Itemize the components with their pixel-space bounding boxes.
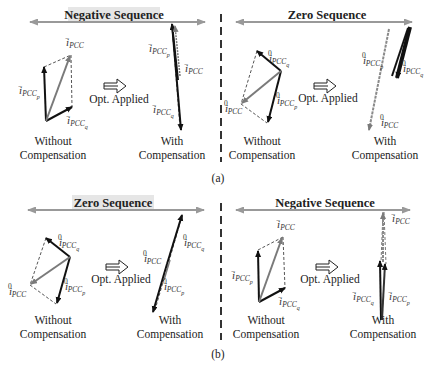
caption-without-l1: Without	[34, 314, 72, 326]
vector-ipcc-q-after	[380, 261, 381, 320]
opt-applied-label: Opt. Applied	[298, 92, 358, 105]
opt-applied-label: Opt. Applied	[300, 273, 360, 286]
caption-without-l2: Compensation	[20, 149, 87, 162]
vector-ipcc-p	[44, 67, 46, 121]
label-ipcc-p-after: i−PCCp	[148, 40, 170, 58]
label-i0pcc: i0PCC	[224, 99, 243, 116]
label-ipcc-p-after: i−PCCp	[388, 288, 410, 306]
label-i0pcc-q: i0PCCq	[58, 233, 79, 252]
section-title: Negative Sequence	[275, 196, 375, 210]
label-ipcc-q: i−PCCq	[278, 293, 300, 311]
label-ipcc-p: i−PCCp	[18, 82, 40, 100]
vector-ipcc-p	[258, 251, 259, 302]
caption-without-l1: Without	[243, 135, 281, 147]
caption-with-l1: With	[372, 314, 395, 326]
label-i0pcc-q-after: i0PCCq	[183, 233, 204, 252]
caption-with-l2: Compensation	[139, 149, 206, 162]
label-ipcc-q-after: i−PCCq	[352, 288, 374, 306]
opt-applied-label: Opt. Applied	[89, 93, 149, 106]
panel-b-right: Negative Sequence i−PCC i−PCCp i−PCCq Wi…	[231, 196, 416, 341]
label-i0pcc-p: i0PCCp	[276, 91, 297, 110]
caption-with-l1: With	[159, 314, 182, 326]
label-ipcc-q-after: i−PCCq	[152, 101, 174, 119]
panel-a-left: Negative Sequence i−PCC i−PCCp i−PCCq Wi…	[18, 7, 205, 162]
label-i0pcc: i0PCC	[8, 282, 27, 299]
label-i0pcc-p-after: i0PCCp	[362, 51, 383, 70]
label-i0pcc-after: i0PCC	[143, 249, 162, 266]
caption-without-l2: Compensation	[233, 328, 300, 341]
vector-i0pcc-q-after	[167, 215, 182, 264]
label-ipcc-p: i−PCCp	[231, 267, 253, 285]
panel-b-left: Zero Sequence i0PCCq i0PCC i0PCCp Withou…	[8, 195, 204, 341]
caption-with-l2: Compensation	[350, 328, 417, 341]
label-ipcc: i−PCC	[65, 34, 85, 50]
section-title: Zero Sequence	[74, 196, 153, 210]
label-ipcc: i−PCC	[276, 216, 296, 232]
caption-without-l1: Without	[247, 314, 285, 326]
label-i0pcc-p-after: i0PCCp	[163, 277, 184, 296]
caption-with-l1: With	[161, 135, 184, 147]
caption-without-l2: Compensation	[229, 149, 296, 162]
panel-a-right: Zero Sequence i0PCCq i0PCC i0PCCp Withou…	[224, 8, 423, 162]
label-ipcc-q: i−PCCq	[66, 112, 88, 130]
label-i0pcc-p: i0PCCp	[64, 277, 85, 296]
label-ipcc-after: i−PCC	[391, 210, 411, 226]
label-i0pcc-q-after: i0PCCq	[402, 59, 423, 78]
caption-without-l1: Without	[34, 135, 72, 147]
label-ipcc-after: i−PCC	[184, 60, 204, 76]
figure-label-b: (b)	[211, 348, 225, 361]
vector-ipcc-p-after	[382, 264, 385, 320]
label-i0pcc-after: i0PCC	[380, 113, 399, 130]
caption-with-l2: Compensation	[352, 149, 419, 162]
figure-label-a: (a)	[212, 172, 225, 185]
vector-i0pcc-after	[369, 29, 389, 130]
opt-applied-label: Opt. Applied	[91, 273, 151, 286]
section-title: Negative Sequence	[64, 8, 164, 22]
phasor-diagram: Negative Sequence i−PCC i−PCCp i−PCCq Wi…	[0, 0, 436, 376]
label-i0pcc-q: i0PCCq	[268, 49, 289, 68]
caption-with-l2: Compensation	[137, 328, 204, 341]
caption-without-l2: Compensation	[20, 328, 87, 341]
caption-with-l1: With	[374, 135, 397, 147]
section-title: Zero Sequence	[288, 8, 367, 22]
